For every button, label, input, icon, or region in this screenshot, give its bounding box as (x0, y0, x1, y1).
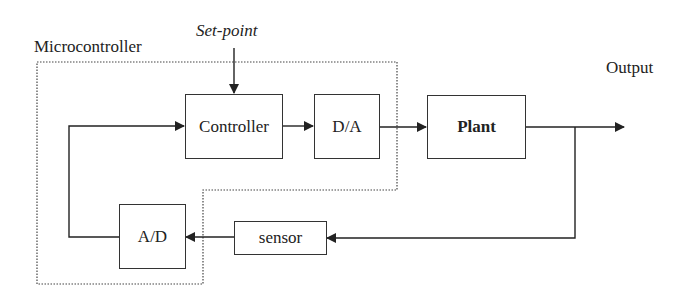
ad-block: A/D (119, 204, 186, 269)
block-diagram: Microcontroller Set-point Output Control… (0, 0, 694, 302)
sensor-block: sensor (234, 221, 327, 255)
da-block-label: D/A (332, 117, 361, 137)
setpoint-label: Set-point (196, 22, 257, 39)
controller-block: Controller (185, 94, 283, 159)
controller-block-label: Controller (199, 117, 269, 137)
output-label: Output (606, 59, 653, 76)
ad-block-label: A/D (138, 227, 167, 247)
plant-block: Plant (427, 95, 526, 159)
microcontroller-label: Microcontroller (34, 38, 142, 55)
sensor-block-label: sensor (259, 228, 302, 248)
da-block: D/A (314, 94, 380, 159)
plant-block-label: Plant (457, 117, 496, 137)
